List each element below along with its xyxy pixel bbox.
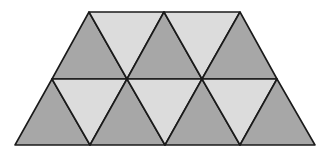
- triangle-tiled-trapezoid: [0, 0, 335, 154]
- diagram-stage: Trapezoid tiled with equilateral triangl…: [0, 0, 335, 154]
